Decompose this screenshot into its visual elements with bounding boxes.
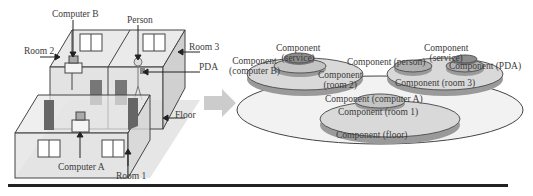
right-arrow-icon	[204, 89, 236, 117]
label-floor: Floor	[175, 110, 196, 120]
door	[128, 98, 138, 130]
label-room1-component: Component (room 1)	[338, 107, 418, 117]
label-room1: Room 1	[116, 171, 146, 181]
label-computer-a: Computer A	[58, 162, 105, 172]
label-pda-component: Component (PDA)	[449, 61, 521, 71]
label-room2-component: Component (room 2)	[318, 70, 362, 90]
label-pda: PDA	[199, 62, 218, 72]
label-computer-b: Computer B	[52, 9, 99, 19]
bottom-rule	[8, 184, 508, 187]
label-computer-b-component: Component (computer B)	[229, 56, 280, 76]
label-floor-component: Component (floor)	[336, 130, 408, 140]
label-service-left: Component (service)	[276, 43, 320, 63]
door	[44, 100, 54, 130]
label-room2: Room 2	[24, 46, 54, 56]
label-room3: Room 3	[189, 42, 219, 52]
label-room3-component: Component (room 3)	[395, 78, 475, 88]
label-person: Person	[127, 15, 153, 25]
label-computer-a-component: Component (computer A)	[325, 94, 423, 104]
label-service-right: Component (service)	[424, 43, 468, 63]
label-person-component: Component (person)	[347, 57, 425, 67]
